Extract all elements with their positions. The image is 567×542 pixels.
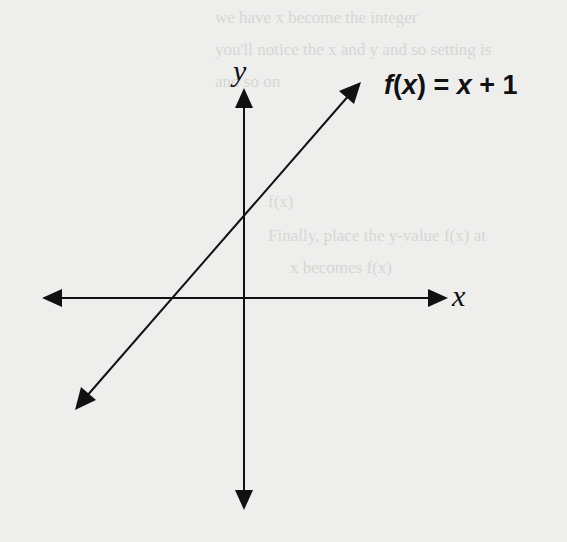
y-axis-down-arrow-icon	[235, 490, 253, 510]
function-name: f	[384, 70, 393, 100]
x-axis-label: x	[452, 281, 465, 311]
line-upper-arrow-icon	[339, 82, 361, 104]
x-axis-left-arrow-icon	[42, 289, 62, 307]
y-axis-label: y	[233, 56, 246, 86]
function-line	[75, 82, 361, 410]
x-axis-right-arrow-icon	[428, 289, 448, 307]
y-axis-up-arrow-icon	[235, 88, 253, 108]
function-label: f(x) = x + 1	[384, 70, 518, 101]
